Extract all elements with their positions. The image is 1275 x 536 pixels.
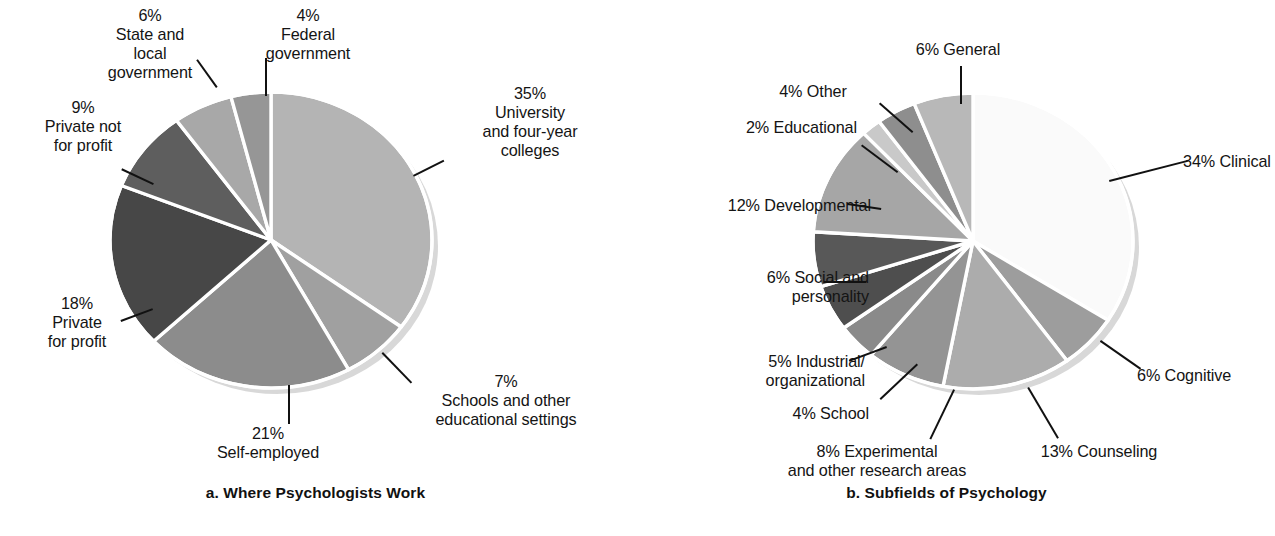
figure-subfields-of-psychology: 34% Clinical6% Cognitive13% Counseling8%… [631,0,1262,536]
label-other: 4% Other [749,82,877,101]
label-schools-and-other-educational-settings: 7% Schools and other educational setting… [386,372,626,429]
label-educational: 2% Educational [689,118,857,137]
label-federal-government: 4% Federal government [228,6,388,63]
label-counseling: 13% Counseling [1009,442,1189,461]
figure-a-caption: a. Where Psychologists Work [0,484,631,502]
label-developmental: 12% Developmental [671,196,871,215]
label-private-not-for-profit: 9% Private not for profit [8,98,158,155]
label-clinical: 34% Clinical [1183,152,1275,171]
label-university-and-four-year-colleges: 35% University and four-year colleges [430,84,630,160]
leader-line-federal-government [265,58,267,96]
label-experimental-and-other-research-areas: 8% Experimental and other research areas [747,442,1007,480]
figure-where-psychologists-work: 35% University and four-year colleges7% … [0,0,631,536]
label-self-employed: 21% Self-employed [178,424,358,462]
label-industrial-organizational: 5% Industrial/ organizational [681,352,865,390]
label-social-and-personality: 6% Social and personality [689,268,869,306]
label-cognitive: 6% Cognitive [1137,366,1275,385]
leader-line-general [960,66,962,104]
leader-line-self-employed [288,385,290,424]
label-general: 6% General [883,40,1033,59]
label-state-and-local-government: 6% State and local government [60,6,240,82]
leader-line-social-and-personality [824,281,866,283]
figure-b-caption: b. Subfields of Psychology [631,484,1262,502]
label-private-for-profit: 18% Private for profit [12,294,142,351]
label-school: 4% School [719,404,869,423]
